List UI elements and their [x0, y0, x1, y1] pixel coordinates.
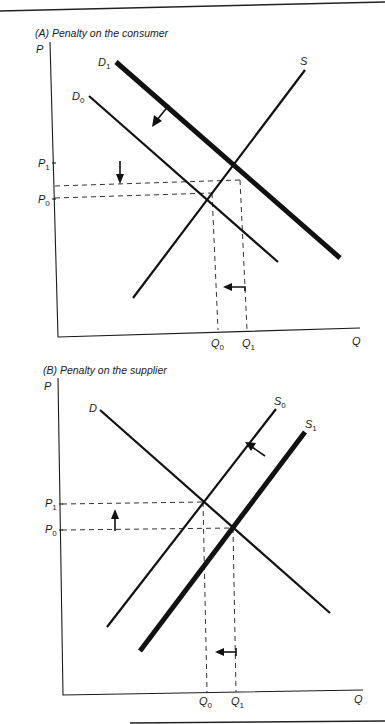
panel-a-demand-shift-arrow-icon — [152, 105, 169, 127]
panel-a-x-axis-label: Q — [352, 335, 361, 347]
panel-b-demand-d — [100, 410, 330, 613]
panel-a-q0-label: Q0 — [211, 337, 225, 352]
panel-b-q1-label: Q1 — [231, 695, 245, 710]
panel-b: (B) Penalty on the supplier P Q D S0 S1 … — [43, 364, 363, 710]
panel-a-s-label: S — [300, 55, 308, 67]
panel-b-q1-guide — [233, 528, 236, 692]
panel-b-p0-guide — [62, 528, 233, 530]
panel-b-supply-s1 — [140, 432, 305, 651]
panel-b-quantity-left-arrow-icon — [215, 648, 236, 656]
panel-b-p1-label: P1 — [45, 497, 57, 512]
panel-a-q0-guide — [212, 193, 218, 330]
bottom-rule — [130, 721, 385, 723]
panel-b-d-label: D — [89, 402, 97, 414]
panel-a-price-down-arrow-icon — [116, 161, 124, 184]
panel-b-s0-label: S0 — [274, 395, 286, 410]
panel-b-q0-guide — [203, 502, 207, 692]
panel-a-y-axis-label: P — [36, 43, 44, 55]
panel-a-quantity-left-arrow-icon — [223, 283, 245, 291]
panel-b-supply-shift-arrow-icon — [245, 442, 265, 456]
panel-b-p0-label: P0 — [45, 523, 57, 538]
panel-a-d1-label: D1 — [98, 56, 111, 71]
top-rule — [0, 2, 385, 11]
panel-b-title: (B) Penalty on the supplier — [43, 364, 167, 376]
panel-a-p1-guide — [55, 180, 240, 186]
panel-a-demand-d1 — [116, 62, 340, 258]
panel-b-q0-label: Q0 — [199, 695, 213, 710]
panel-a: (A) Penalty on the consumer P Q D1 D0 S … — [35, 27, 361, 352]
panel-a-q1-guide — [240, 180, 247, 330]
panel-a-supply-s — [133, 70, 305, 298]
panel-b-supply-s0 — [107, 409, 276, 627]
panel-a-q1-label: Q1 — [242, 337, 256, 352]
panel-a-d0-label: D0 — [72, 90, 85, 105]
panel-b-y-axis-label: P — [44, 380, 52, 392]
panel-a-title: (A) Penalty on the consumer — [35, 27, 169, 39]
panel-a-axes — [50, 42, 360, 337]
panel-b-axes — [58, 378, 363, 695]
panel-b-x-axis-label: Q — [354, 693, 363, 705]
panel-a-p1-label: P1 — [38, 157, 50, 172]
panel-a-p0-guide — [55, 193, 212, 198]
panel-b-price-up-arrow-icon — [111, 509, 119, 531]
panel-a-p0-label: P0 — [38, 193, 50, 208]
panel-b-p1-guide — [62, 502, 203, 504]
panel-b-s1-label: S1 — [305, 418, 317, 433]
figure-canvas: (A) Penalty on the consumer P Q D1 D0 S … — [0, 0, 385, 724]
